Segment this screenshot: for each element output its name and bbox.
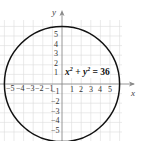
eq-exp-y: 2 xyxy=(87,66,90,72)
x-tick-3: 3 xyxy=(89,86,93,94)
x-tick-2: 2 xyxy=(79,86,83,94)
circle-equation-label: x2 + y2 = 36 xyxy=(65,66,110,78)
y-tick-2: 2 xyxy=(54,60,58,68)
y-axis xyxy=(60,10,65,141)
eq-rhs: = 36 xyxy=(93,67,110,77)
y-tick-neg5: −5 xyxy=(51,127,60,135)
y-axis-label: y xyxy=(52,8,56,17)
x-tick-5: 5 xyxy=(108,86,112,94)
y-tick-5: 5 xyxy=(54,31,58,39)
y-tick-3: 3 xyxy=(54,50,58,58)
y-tick-neg4: −4 xyxy=(51,117,60,125)
x-axis-label: x xyxy=(131,89,135,98)
x-tick-neg4: −4 xyxy=(16,85,25,93)
y-tick-4: 4 xyxy=(54,41,58,49)
x-tick-4: 4 xyxy=(98,86,102,94)
x-tick-neg2: −2 xyxy=(35,85,44,93)
x-tick-neg3: −3 xyxy=(26,85,35,93)
x-tick-neg1: −1 xyxy=(45,85,54,93)
x-tick-neg5: −5 xyxy=(6,85,15,93)
y-tick-neg2: −2 xyxy=(51,98,60,106)
eq-plus: + xyxy=(75,67,80,77)
eq-exp-x: 2 xyxy=(70,66,73,72)
y-tick-neg3: −3 xyxy=(51,108,60,116)
y-tick-1: 1 xyxy=(54,69,58,77)
x-tick-1: 1 xyxy=(70,86,74,94)
